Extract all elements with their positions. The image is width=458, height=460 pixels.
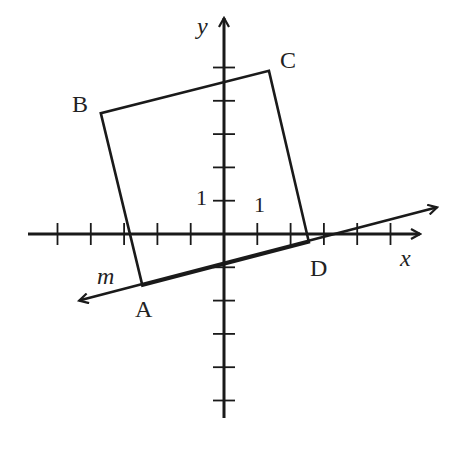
vertex-label-d: D	[310, 255, 327, 281]
quadrilateral-outline	[101, 71, 309, 286]
coordinate-diagram: y x 1 1 A B C D m	[0, 0, 458, 460]
line-m-segment	[79, 207, 437, 300]
labels: y x 1 1 A B C D m	[72, 13, 411, 322]
vertex-label-c: C	[280, 47, 296, 73]
vertex-label-b: B	[72, 91, 88, 117]
x-axis-label: x	[399, 245, 411, 271]
line-label-m: m	[97, 263, 114, 289]
vertex-label-a: A	[135, 296, 153, 322]
y-unit-label: 1	[196, 185, 207, 210]
x-unit-label: 1	[254, 192, 265, 217]
y-axis-label: y	[195, 13, 208, 39]
axes	[28, 18, 420, 418]
quadrilateral-abcd	[101, 71, 309, 286]
line-m	[79, 207, 437, 300]
